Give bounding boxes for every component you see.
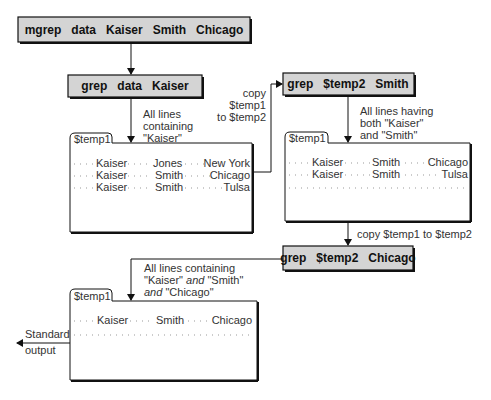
svg-text:New York: New York (204, 157, 251, 169)
svg-text:Chicago: Chicago (210, 169, 250, 181)
command-grep2-text: grep $temp2 Smith (287, 77, 408, 91)
svg-text:Jones: Jones (153, 157, 183, 169)
svg-text:copy: copy (243, 87, 267, 99)
svg-text:All lines having: All lines having (360, 105, 433, 117)
command-box-grep1: grep data Kaiser (68, 75, 204, 99)
label-standard-output: Standard output (25, 328, 70, 356)
svg-text:All lines containing: All lines containing (144, 262, 235, 274)
label-copy1: copy $temp1 to $temp2 (217, 87, 266, 123)
command-grep3-text: grep $temp2 Chicago (280, 251, 415, 265)
label-step2: All lines having both "Kaiser" and "Smit… (360, 105, 433, 141)
svg-text:Smith: Smith (372, 168, 400, 180)
svg-text:to $temp2: to $temp2 (217, 111, 266, 123)
svg-text:Smith: Smith (156, 314, 184, 326)
svg-text:both "Kaiser": both "Kaiser" (360, 117, 424, 129)
svg-text:and "Smith": and "Smith" (360, 129, 417, 141)
svg-text:$temp1: $temp1 (229, 99, 266, 111)
command-box-grep2: grep $temp2 Smith (283, 73, 416, 97)
svg-text:"Kaiser" and "Smith": "Kaiser" and "Smith" (144, 274, 243, 286)
file-temp1-stage1: $temp1 Kaiser Jones New York Kaiser Smit… (70, 133, 253, 233)
file-tab-label: $temp1 (74, 133, 111, 145)
command-grep1-text: grep data Kaiser (81, 79, 189, 93)
svg-text:Standard: Standard (25, 328, 70, 340)
svg-text:Chicago: Chicago (428, 156, 468, 168)
svg-text:and "Chicago": and "Chicago" (144, 286, 214, 298)
svg-text:"Kaiser": "Kaiser" (143, 132, 182, 144)
svg-text:Chicago: Chicago (212, 314, 252, 326)
command-mgrep-text: mgrep data Kaiser Smith Chicago (25, 23, 244, 37)
svg-text:output: output (25, 344, 56, 356)
svg-text:Kaiser: Kaiser (312, 156, 344, 168)
svg-text:Smith: Smith (372, 156, 400, 168)
svg-text:Kaiser: Kaiser (97, 314, 129, 326)
svg-text:Smith: Smith (155, 169, 183, 181)
label-step3: All lines containing "Kaiser" and "Smith… (144, 262, 243, 298)
file-temp1-stage3: $temp1 Kaiser Smith Chicago (70, 289, 258, 381)
svg-text:Tulsa: Tulsa (442, 168, 469, 180)
label-step1: All lines containing "Kaiser" (143, 108, 193, 144)
svg-text:containing: containing (143, 120, 193, 132)
svg-text:Kaiser: Kaiser (96, 157, 128, 169)
svg-text:Kaiser: Kaiser (96, 181, 128, 193)
svg-text:$temp1: $temp1 (289, 132, 326, 144)
svg-text:$temp1: $temp1 (74, 290, 111, 302)
svg-text:Kaiser: Kaiser (312, 168, 344, 180)
svg-text:All lines: All lines (143, 108, 181, 120)
mgrep-flow-diagram: mgrep data Kaiser Smith Chicago grep dat… (0, 0, 491, 400)
label-copy2: copy $temp1 to $temp2 (357, 228, 472, 240)
svg-text:Tulsa: Tulsa (224, 181, 251, 193)
svg-text:Kaiser: Kaiser (96, 169, 128, 181)
file-temp1-stage2: $temp1 Kaiser Smith Chicago Kaiser Smith… (285, 132, 471, 222)
command-box-mgrep: mgrep data Kaiser Smith Chicago (18, 17, 252, 44)
svg-text:Smith: Smith (155, 181, 183, 193)
command-box-grep3: grep $temp2 Chicago (280, 246, 415, 272)
